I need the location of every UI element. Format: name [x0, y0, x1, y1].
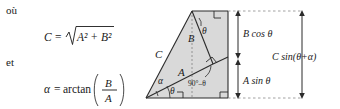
measurement-brackets: B cos θ A sin θ C sin(θ+α) [228, 10, 317, 99]
angle-label-theta-bottom: θ [170, 86, 175, 96]
paren-right-icon [120, 74, 124, 106]
side-label-b: B [188, 33, 195, 44]
bracket-label-a-sin-theta: A sin θ [242, 75, 271, 86]
bracket-label-c-sin-sum: C sin(θ+α) [272, 51, 317, 63]
formula-alpha-lhs: α [44, 83, 51, 95]
formula-c-lhs: C [44, 31, 52, 43]
arrowhead-down-b [235, 53, 241, 59]
formula-c-radicand: A² + B² [76, 31, 112, 43]
formula-alpha: α = arctan B A [44, 74, 124, 106]
definitions-text-block: où C = A² + B² et α = arctan B A [6, 4, 124, 106]
bracket-c-sin-sum: C sin(θ+α) [272, 10, 317, 99]
formula-alpha-function: arctan [63, 83, 91, 95]
side-label-a: A [177, 66, 185, 78]
formula-c-equals: = [55, 31, 62, 43]
formula-c: C = A² + B² [44, 27, 114, 45]
side-label-c: C [155, 48, 163, 60]
bracket-label-b-cos-theta: B cos θ [243, 28, 272, 39]
and-label: et [6, 56, 14, 68]
paren-left-icon [94, 74, 98, 106]
formula-alpha-equals: = [54, 83, 61, 95]
arrowhead-up-a [235, 59, 241, 65]
fraction-numerator: B [105, 77, 112, 89]
angle-label-complement: 90°–θ [188, 79, 206, 88]
triangle-diagram: C A B α θ θ 90°–θ [146, 11, 228, 98]
bracket-b-cos-theta: B cos θ [235, 10, 272, 59]
angle-label-theta-top: θ [202, 26, 207, 36]
trig-identity-figure: où C = A² + B² et α = arctan B A [0, 0, 340, 109]
fraction-denominator: A [104, 92, 112, 104]
bracket-a-sin-theta: A sin θ [235, 59, 270, 99]
where-label: où [6, 4, 18, 16]
